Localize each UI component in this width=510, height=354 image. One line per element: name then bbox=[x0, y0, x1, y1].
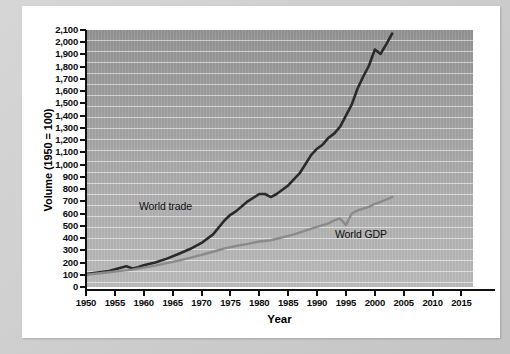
y-axis-tick bbox=[80, 262, 86, 264]
y-axis-tick bbox=[80, 286, 86, 288]
x-axis-tick bbox=[114, 290, 116, 296]
y-axis-tick bbox=[80, 66, 86, 68]
y-axis-tick-label: 200 bbox=[38, 258, 78, 268]
y-axis-tick bbox=[80, 200, 86, 202]
y-axis-tick-label: 2,100 bbox=[38, 25, 78, 35]
x-axis-tick bbox=[403, 290, 405, 296]
y-axis-tick bbox=[80, 90, 86, 92]
y-axis-tick bbox=[80, 249, 86, 251]
line-chart: 01002003004005006007008009001,0001,1001,… bbox=[22, 6, 500, 338]
y-axis-tick bbox=[80, 164, 86, 166]
figure-card: 01002003004005006007008009001,0001,1001,… bbox=[22, 6, 500, 338]
x-axis-tick bbox=[432, 290, 434, 296]
y-axis-tick bbox=[80, 213, 86, 215]
x-axis-tick bbox=[316, 290, 318, 296]
y-axis-tick bbox=[80, 225, 86, 227]
y-axis-tick bbox=[80, 53, 86, 55]
y-axis-tick bbox=[80, 41, 86, 43]
y-axis-tick bbox=[80, 115, 86, 117]
x-axis-title: Year bbox=[86, 313, 473, 325]
x-axis-tick bbox=[258, 290, 260, 296]
y-axis-tick-labels: 01002003004005006007008009001,0001,1001,… bbox=[30, 6, 78, 306]
y-axis-tick-label: 1,900 bbox=[38, 49, 78, 59]
x-axis-tick bbox=[460, 290, 462, 296]
y-axis-tick bbox=[80, 78, 86, 80]
x-axis-tick bbox=[85, 290, 87, 296]
series-label-world-gdp: World GDP bbox=[335, 228, 387, 240]
y-axis-tick bbox=[80, 102, 86, 104]
x-axis-tick bbox=[374, 290, 376, 296]
series-lines bbox=[86, 30, 473, 287]
x-axis-tick bbox=[172, 290, 174, 296]
x-axis-tick bbox=[229, 290, 231, 296]
plot-area bbox=[86, 30, 473, 287]
y-axis-tick-label: 2,000 bbox=[38, 37, 78, 47]
y-axis-tick bbox=[80, 176, 86, 178]
y-axis-tick bbox=[80, 139, 86, 141]
y-axis-tick bbox=[80, 29, 86, 31]
y-axis-title: Volume (1950 = 100) bbox=[42, 70, 54, 250]
x-axis-tick bbox=[345, 290, 347, 296]
series-label-world-trade: World trade bbox=[139, 200, 192, 212]
y-axis-tick bbox=[80, 188, 86, 190]
x-axis-tick bbox=[287, 290, 289, 296]
x-axis-tick bbox=[201, 290, 203, 296]
y-axis-tick-label: 100 bbox=[38, 270, 78, 280]
y-axis-tick bbox=[80, 127, 86, 129]
x-axis-tick-label: 2015 bbox=[444, 298, 478, 308]
y-axis-tick bbox=[80, 237, 86, 239]
y-axis-tick bbox=[80, 274, 86, 276]
y-axis-tick-label: 0 bbox=[38, 282, 78, 292]
y-axis-tick bbox=[80, 151, 86, 153]
x-axis-tick bbox=[143, 290, 145, 296]
